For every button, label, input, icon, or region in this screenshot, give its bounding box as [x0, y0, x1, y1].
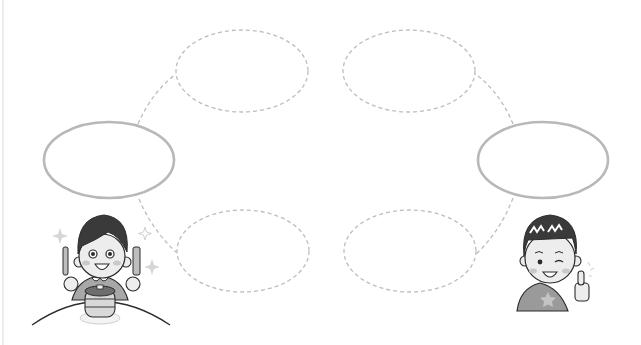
right-hand: [126, 277, 140, 291]
sparkle-icon: [144, 259, 160, 275]
knife: [63, 247, 68, 275]
cheek: [82, 261, 90, 266]
cheek: [529, 269, 537, 274]
connector-right-main-to-bottom-right: [475, 198, 513, 255]
sub-node-bottom-right[interactable]: [344, 210, 476, 292]
sub-node-bottom-left[interactable]: [177, 210, 309, 292]
pupil: [108, 252, 112, 256]
thumb: [578, 271, 584, 285]
butter: [97, 285, 103, 289]
eye: [538, 260, 543, 265]
main-node-right-main[interactable]: [478, 122, 608, 198]
left-hand: [64, 277, 78, 291]
worksheet-canvas: [0, 0, 641, 345]
main-node-group: [44, 122, 608, 198]
sub-node-group: [176, 30, 476, 292]
cheek: [562, 269, 570, 274]
main-node-left-main[interactable]: [44, 122, 174, 198]
sub-node-top-right[interactable]: [343, 30, 475, 112]
fork: [133, 247, 140, 275]
boy-thumbs-up-illustration: [517, 215, 594, 311]
boy-eating-pancakes-illustration: [32, 215, 170, 325]
fist: [575, 283, 589, 301]
shirt: [517, 283, 568, 311]
sparkle-icon: [139, 227, 152, 240]
cheek: [113, 261, 121, 266]
sub-node-top-left[interactable]: [176, 30, 308, 112]
connector-right-main-to-top-right: [474, 73, 513, 124]
connector-left-main-to-bottom-left: [139, 199, 177, 253]
shine-lines: [588, 262, 594, 276]
pupil: [91, 252, 95, 256]
connector-left-main-to-top-left: [138, 74, 176, 124]
diagram-svg: [0, 0, 641, 345]
sparkle-icon: [52, 228, 68, 244]
